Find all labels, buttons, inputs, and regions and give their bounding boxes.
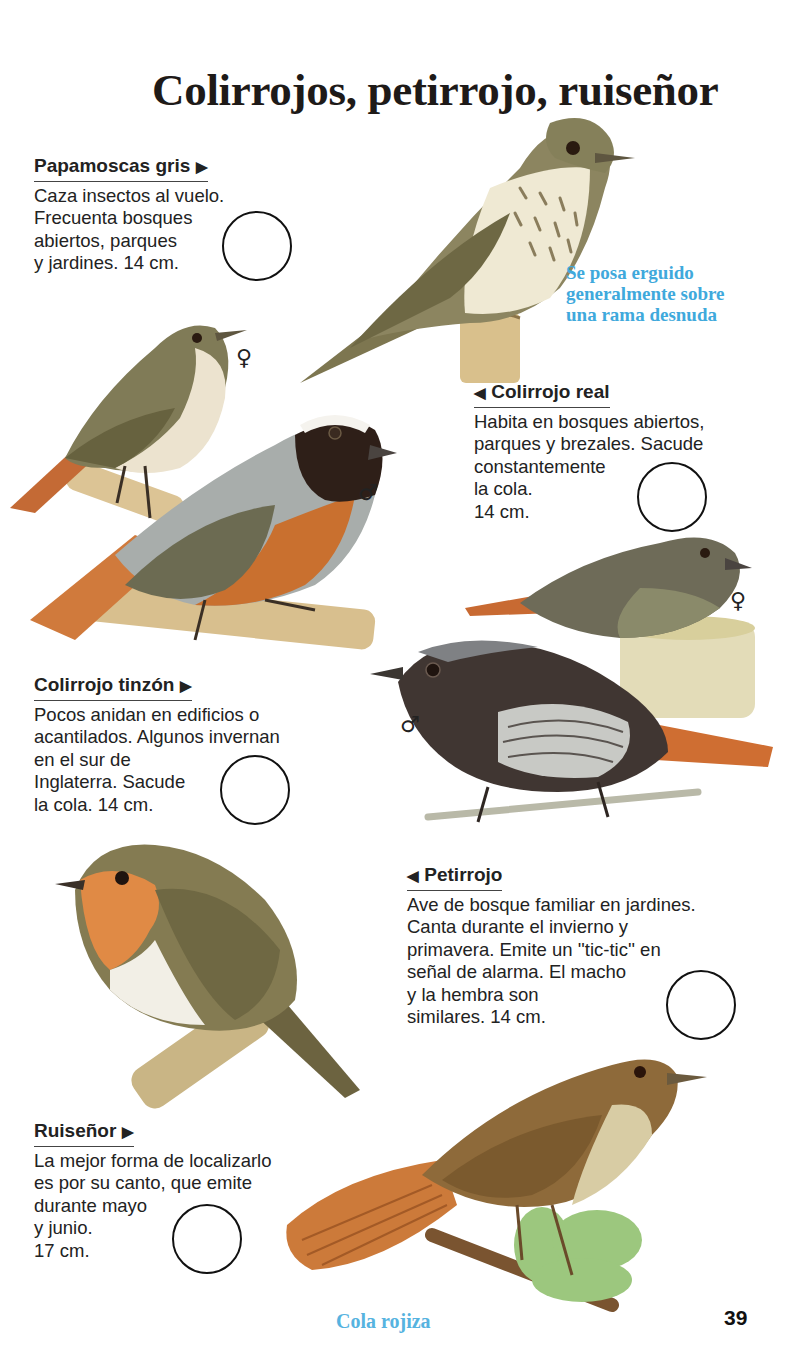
tick-circle-black-redstart[interactable]: [220, 755, 290, 825]
entry-description: Caza insectos al vuelo. Frecuenta bosque…: [34, 185, 224, 275]
entry-description: Ave de bosque familiar en jardines. Cant…: [407, 894, 696, 1029]
entry-spotted-flycatcher: Papamoscas gris ▶ Caza insectos al vuelo…: [34, 155, 224, 275]
spotted-flycatcher-illustration: [290, 108, 640, 388]
arrow-right-icon: ▶: [196, 158, 208, 175]
page-number: 39: [724, 1306, 747, 1330]
black-redstart-male-illustration: [368, 632, 778, 842]
tick-circle-robin[interactable]: [666, 970, 736, 1040]
nightingale-illustration: [282, 1045, 722, 1325]
arrow-left-icon: ◀: [474, 384, 486, 401]
male-symbol-common-redstart: ♂: [358, 480, 378, 505]
arrow-left-icon: ◀: [407, 867, 419, 884]
tick-circle-spotted-flycatcher[interactable]: [222, 211, 292, 281]
entry-heading: ◀ Colirrojo real: [474, 381, 610, 408]
entry-title: Ruiseñor: [34, 1120, 116, 1141]
entry-heading: Papamoscas gris ▶: [34, 155, 208, 182]
entry-heading: Colirrojo tinzón ▶: [34, 674, 192, 701]
entry-title: Petirrojo: [424, 864, 502, 885]
arrow-right-icon: ▶: [180, 677, 192, 694]
tick-circle-common-redstart[interactable]: [637, 462, 707, 532]
arrow-right-icon: ▶: [122, 1123, 134, 1140]
entry-heading: Ruiseñor ▶: [34, 1120, 134, 1147]
entry-title: Papamoscas gris: [34, 155, 190, 176]
female-symbol-common-redstart: ♀: [236, 345, 252, 370]
tick-circle-nightingale[interactable]: [172, 1204, 242, 1274]
entry-robin: ◀ Petirrojo Ave de bosque familiar en ja…: [407, 864, 696, 1029]
common-redstart-male-illustration: [25, 405, 405, 660]
entry-title: Colirrojo tinzón: [34, 674, 174, 695]
male-symbol-black-redstart: ♂: [400, 712, 420, 737]
female-symbol-black-redstart: ♀: [730, 588, 746, 613]
footer-caption: Cola rojiza: [336, 1310, 431, 1333]
perching-caption: Se posa erguido generalmente sobre una r…: [566, 262, 724, 325]
entry-heading: ◀ Petirrojo: [407, 864, 502, 891]
entry-title: Colirrojo real: [491, 381, 609, 402]
